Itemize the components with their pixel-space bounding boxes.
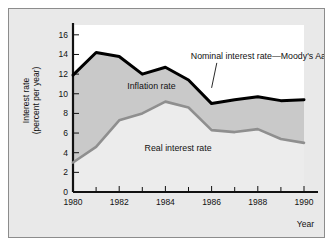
y-axis-tick-label: 12 <box>59 69 69 79</box>
y-axis-tick-label: 14 <box>59 49 69 59</box>
y-axis-tick-label: 0 <box>63 187 68 197</box>
y-axis-title: Interest rate(percent per year) <box>21 67 41 135</box>
inflation-label: Inflation rate <box>127 81 176 91</box>
chart-figure: 0246810121416198019821984198619881990Nom… <box>8 8 325 238</box>
y-axis-tick-label: 2 <box>63 167 68 177</box>
y-axis-tick-label: 8 <box>63 108 68 118</box>
y-axis-tick-label: 4 <box>63 148 68 158</box>
y-axis-tick-label: 16 <box>59 30 69 40</box>
x-axis-tick-label: 1984 <box>156 197 175 207</box>
x-axis-tick-label: 1982 <box>110 197 129 207</box>
real-label: Real interest rate <box>145 143 212 153</box>
x-axis-tick-label: 1980 <box>64 197 83 207</box>
y-axis-tick-label: 10 <box>59 89 69 99</box>
x-axis-tick-label: 1986 <box>202 197 221 207</box>
y-axis-tick-label: 6 <box>63 128 68 138</box>
x-axis-tick-label: 1990 <box>295 197 314 207</box>
x-axis-title: Year <box>297 219 314 229</box>
nominal-label: Nominal interest rate—Moody's Aaa <box>191 51 324 61</box>
x-axis-tick-label: 1988 <box>248 197 267 207</box>
interest-rate-area-chart: 0246810121416198019821984198619881990Nom… <box>9 9 324 237</box>
